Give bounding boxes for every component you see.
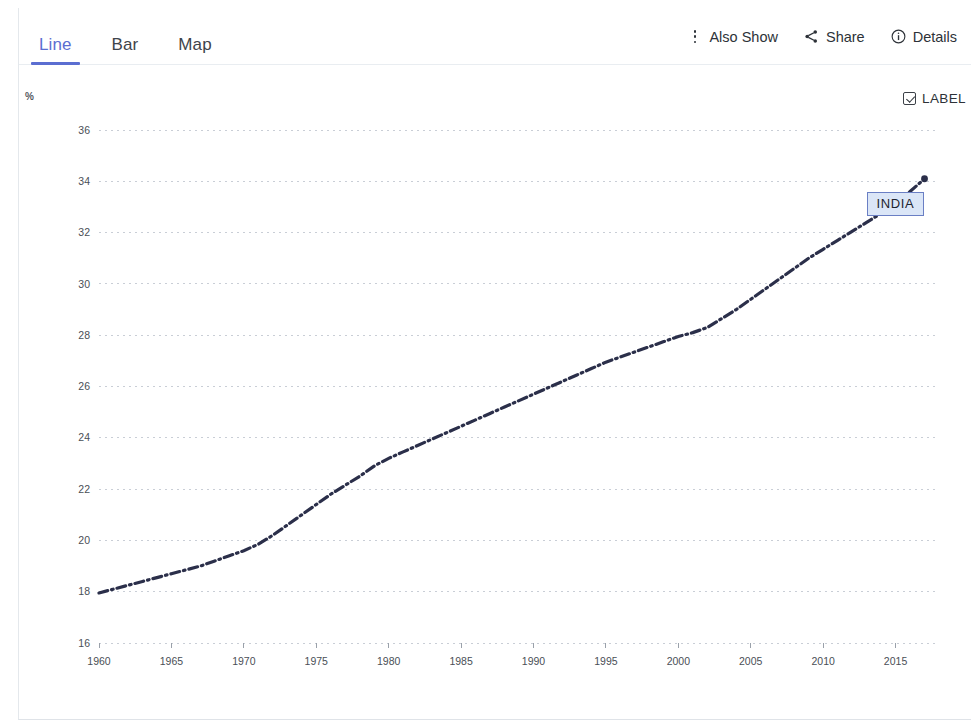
tab-bar[interactable]: Bar [92, 8, 159, 65]
svg-text:1980: 1980 [377, 655, 401, 667]
details-button[interactable]: Details [891, 29, 957, 45]
chart-card: Line Bar Map Also Show [18, 8, 971, 720]
svg-text:2010: 2010 [811, 655, 835, 667]
share-label: Share [826, 29, 865, 45]
svg-text:1975: 1975 [305, 655, 329, 667]
header-toolbar: Also Show Share [687, 8, 971, 65]
svg-text:2015: 2015 [884, 655, 908, 667]
plot-area: 1618202224262830323436196019651970197519… [67, 110, 947, 685]
svg-text:26: 26 [78, 380, 90, 392]
share-icon [804, 29, 819, 44]
y-axis-unit: % [25, 91, 34, 102]
series-label-india[interactable]: INDIA [867, 192, 925, 216]
svg-text:1960: 1960 [87, 655, 111, 667]
svg-text:22: 22 [78, 483, 90, 495]
also-show-button[interactable]: Also Show [687, 29, 778, 45]
svg-text:20: 20 [78, 534, 90, 546]
app-root: Line Bar Map Also Show [0, 0, 971, 727]
share-button[interactable]: Share [804, 29, 865, 45]
card-header: Line Bar Map Also Show [19, 8, 971, 65]
tab-map[interactable]: Map [158, 8, 231, 65]
svg-text:34: 34 [78, 175, 90, 187]
label-checkbox-icon[interactable] [903, 92, 916, 105]
svg-text:1995: 1995 [594, 655, 618, 667]
svg-text:1970: 1970 [232, 655, 256, 667]
svg-text:16: 16 [78, 637, 90, 649]
details-label: Details [913, 29, 957, 45]
label-toggle-text: LABEL [922, 91, 966, 106]
svg-text:2005: 2005 [739, 655, 763, 667]
svg-text:1990: 1990 [522, 655, 546, 667]
svg-text:30: 30 [78, 278, 90, 290]
also-show-label: Also Show [709, 29, 778, 45]
info-circle-icon [891, 29, 906, 44]
kebab-menu-icon [687, 29, 702, 44]
chart-container: % LABEL 16182022242628303234361960196519… [19, 65, 971, 665]
svg-text:28: 28 [78, 329, 90, 341]
svg-text:1985: 1985 [449, 655, 473, 667]
svg-text:1965: 1965 [160, 655, 184, 667]
svg-text:18: 18 [78, 585, 90, 597]
svg-text:2000: 2000 [667, 655, 691, 667]
line-chart-svg: 1618202224262830323436196019651970197519… [67, 110, 947, 685]
label-toggle[interactable]: LABEL [903, 91, 966, 106]
svg-text:24: 24 [78, 431, 90, 443]
view-tabs: Line Bar Map [19, 8, 232, 65]
svg-text:36: 36 [78, 124, 90, 136]
svg-text:32: 32 [78, 226, 90, 238]
tab-line[interactable]: Line [19, 8, 92, 65]
